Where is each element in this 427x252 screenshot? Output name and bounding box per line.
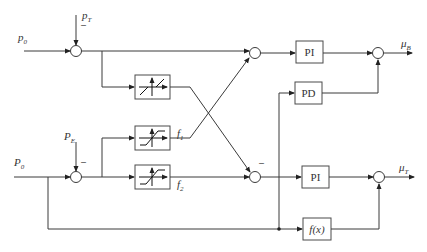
summing-junction-5 [71,172,82,183]
label-f1: f1 [177,128,184,142]
summing-junction-2 [250,48,261,59]
fx-label: f(x) [303,224,331,235]
junction-dot [277,227,281,231]
summing-junction-6 [374,172,385,183]
summing-junction-4 [373,48,384,59]
minus-sign-1: – [81,20,86,30]
label-muT: μT [399,162,408,176]
feed-to-pd [279,93,294,229]
summing-junction-3 [250,172,261,183]
pd-to-sum4 [322,60,378,93]
block-diagram: p0 pT – P0 PE – f1 f2 – PI PD PI f(x) μB… [0,0,427,252]
label-PE: PE [64,131,75,145]
pi-top-label: PI [296,47,323,58]
minus-sign-3: – [259,158,264,168]
summing-junction-1 [71,46,82,57]
label-p0: p0 [18,32,27,46]
pd-label: PD [295,88,322,99]
branch-to-deadzone [102,51,134,87]
label-P0: P0 [14,157,24,171]
diagram-canvas [0,0,427,252]
label-muB: μB [401,38,411,52]
feedforward-line [48,177,302,229]
branch-to-f1 [102,138,134,177]
minus-sign-2: – [81,157,86,167]
fx-to-sum6 [331,184,379,229]
label-f2: f2 [177,179,184,193]
pi-bottom-label: PI [302,172,329,183]
f1-to-sum2 [170,58,249,138]
